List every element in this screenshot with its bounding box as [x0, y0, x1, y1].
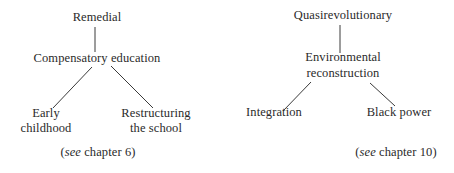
edge-environmental-black-power [370, 83, 395, 106]
reference-chapter-10: (see chapter 10) [346, 145, 446, 160]
edge-compensatory-restructuring [111, 66, 153, 108]
node-quasirevolutionary: Quasirevolutionary [283, 8, 403, 23]
node-black-power: Black power [359, 105, 439, 120]
reference-chapter-6: (see chapter 6) [48, 145, 148, 160]
node-restructuring-line1: Restructuring [113, 106, 199, 121]
node-environmental-line2: reconstruction [293, 66, 393, 81]
node-integration: Integration [238, 105, 310, 120]
node-compensatory-education: Compensatory education [22, 51, 172, 66]
see-italic: see [65, 145, 81, 159]
node-environmental-line1: Environmental [293, 50, 393, 65]
edge-compensatory-early-childhood [53, 67, 92, 108]
node-environmental-reconstruction: Environmental reconstruction [293, 50, 393, 81]
node-restructuring-line2: the school [113, 121, 199, 136]
node-early-childhood-line1: Early [10, 106, 82, 121]
node-remedial: Remedial [47, 10, 147, 25]
node-early-childhood-line2: childhood [10, 121, 82, 136]
node-restructuring-the-school: Restructuring the school [113, 106, 199, 136]
see-italic: see [360, 145, 376, 159]
node-early-childhood: Early childhood [10, 106, 82, 136]
